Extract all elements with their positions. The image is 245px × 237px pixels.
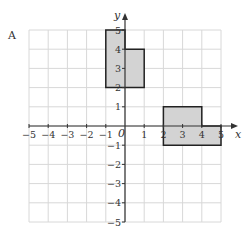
y-tick-label: 5 [115,25,121,36]
y-tick-label: −3 [107,178,121,189]
x-tick-label: −2 [80,129,94,140]
y-tick-label: −4 [107,197,121,208]
y-tick-label: −5 [107,217,121,228]
y-axis-arrow-icon [122,13,128,20]
y-tick-label: 3 [115,63,121,74]
x-tick-label: 3 [180,129,186,140]
y-tick-label: 4 [115,44,121,55]
x-tick-label: −1 [99,129,113,140]
y-tick-label: −1 [107,140,121,151]
x-tick-label: 4 [199,129,205,140]
origin-label: 0 [118,127,125,140]
coordinate-grid: xy0−5−4−3−2−11234554321−1−2−3−4−5 [0,0,245,237]
x-axis-label: x [235,128,242,141]
x-tick-label: 5 [218,129,224,140]
x-tick-label: −4 [41,129,55,140]
y-tick-label: −2 [107,159,121,170]
x-tick-label: 1 [141,129,147,140]
x-tick-label: −5 [22,129,36,140]
y-tick-label: 1 [115,101,121,112]
y-tick-label: 2 [115,82,121,93]
x-tick-label: −3 [60,129,74,140]
y-axis-label: y [113,9,121,22]
x-tick-label: 2 [160,129,166,140]
